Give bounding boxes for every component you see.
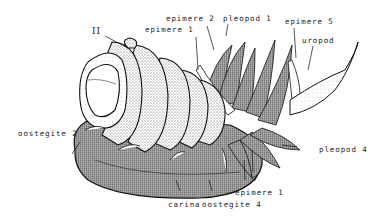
label-epimere-5: epimere 5 [285,18,334,26]
label-uropod: uropod [302,37,335,45]
head [80,53,127,128]
label-epimere-2: epimere 2 [166,15,215,23]
label-pleopod-4: pleopod 4 [319,146,368,154]
label-male-symbol: ♂ [252,174,258,183]
uropod [290,42,358,115]
label-segment-II: II [92,27,101,36]
label-oostegite-2: oostegite 2 [18,130,78,138]
label-oostegite-4: oostegite 4 [202,201,262,209]
label-epimere-1-bottom: epimere 1 [235,189,284,197]
label-epimere-1-top: epimere 1 [145,26,194,34]
label-carina: carina [168,201,201,209]
label-pleopod-1: pleopod 1 [223,15,272,23]
